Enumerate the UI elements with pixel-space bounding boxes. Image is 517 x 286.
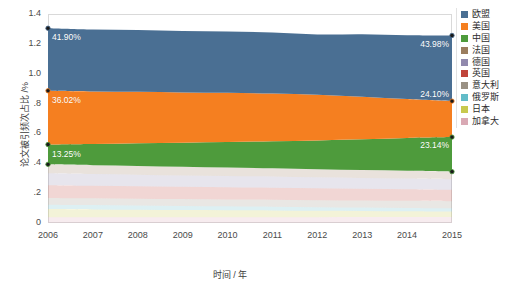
- legend-item-label: 英国: [472, 68, 490, 79]
- data-point-marker: [450, 99, 454, 103]
- x-tick-label: 2009: [163, 230, 203, 240]
- x-tick-label: 2008: [118, 230, 158, 240]
- legend-item-日本[interactable]: 日本: [461, 103, 517, 115]
- legend-item-label: 意大利: [472, 80, 499, 91]
- y-tick-label: 1.0: [15, 68, 41, 78]
- x-tick-label: 2006: [28, 230, 68, 240]
- legend-item-label: 中国: [472, 33, 490, 44]
- data-point-marker: [46, 142, 50, 146]
- legend-item-欧盟[interactable]: 欧盟: [461, 9, 517, 21]
- legend-item-意大利[interactable]: 意大利: [461, 80, 517, 92]
- data-point-marker: [46, 162, 50, 166]
- legend-swatch-icon: [461, 94, 468, 101]
- x-tick-label: 2011: [252, 230, 292, 240]
- data-label: 41.90%: [52, 32, 81, 42]
- data-label: 13.25%: [52, 149, 81, 159]
- legend-divider: [456, 8, 457, 128]
- y-tick-label: 1.2: [15, 38, 41, 48]
- area-band-美国: [48, 91, 452, 145]
- data-label: 23.14%: [405, 140, 449, 150]
- legend-item-美国[interactable]: 美国: [461, 21, 517, 33]
- data-point-marker: [450, 33, 454, 37]
- chart-legend: 欧盟美国中国法国德国英国意大利俄罗斯日本加拿大: [461, 9, 517, 127]
- legend-item-德国[interactable]: 德国: [461, 56, 517, 68]
- legend-swatch-icon: [461, 23, 468, 30]
- x-tick-label: 2015: [432, 230, 472, 240]
- legend-item-label: 德国: [472, 57, 490, 68]
- legend-swatch-icon: [461, 118, 468, 125]
- y-tick-label: 1.4: [15, 8, 41, 18]
- data-label: 36.02%: [52, 95, 81, 105]
- data-point-marker: [450, 135, 454, 139]
- data-label: 43.98%: [405, 39, 449, 49]
- legend-swatch-icon: [461, 35, 468, 42]
- legend-item-英国[interactable]: 英国: [461, 68, 517, 80]
- legend-item-label: 加拿大: [472, 116, 499, 127]
- legend-swatch-icon: [461, 59, 468, 66]
- data-point-marker: [46, 89, 50, 93]
- legend-swatch-icon: [461, 47, 468, 54]
- x-tick-label: 2007: [73, 230, 113, 240]
- legend-item-label: 美国: [472, 21, 490, 32]
- stacked-area-chart: 论文被引频次占比 /% 时间 / 年 1.41.21.0.8.6.4.20 20…: [0, 0, 517, 286]
- legend-item-加拿大[interactable]: 加拿大: [461, 115, 517, 127]
- data-point-marker: [46, 26, 50, 30]
- y-tick-label: .4: [15, 157, 41, 167]
- legend-item-label: 日本: [472, 104, 490, 115]
- legend-swatch-icon: [461, 106, 468, 113]
- x-tick-label: 2010: [208, 230, 248, 240]
- data-point-marker: [450, 169, 454, 173]
- x-tick-label: 2014: [387, 230, 427, 240]
- area-band-欧盟: [48, 28, 452, 101]
- x-axis-title: 时间 / 年: [0, 268, 460, 281]
- legend-item-中国[interactable]: 中国: [461, 33, 517, 45]
- data-label: 24.10%: [405, 89, 449, 99]
- legend-swatch-icon: [461, 70, 468, 77]
- y-tick-label: .8: [15, 98, 41, 108]
- legend-swatch-icon: [461, 11, 468, 18]
- area-band-加拿大: [48, 217, 452, 223]
- x-tick-label: 2013: [342, 230, 382, 240]
- legend-item-俄罗斯[interactable]: 俄罗斯: [461, 92, 517, 104]
- y-tick-label: .2: [15, 187, 41, 197]
- x-tick-label: 2012: [297, 230, 337, 240]
- legend-swatch-icon: [461, 82, 468, 89]
- legend-item-label: 俄罗斯: [472, 92, 499, 103]
- y-tick-label: .6: [15, 127, 41, 137]
- legend-item-label: 欧盟: [472, 9, 490, 20]
- legend-item-label: 法国: [472, 45, 490, 56]
- legend-item-法国[interactable]: 法国: [461, 44, 517, 56]
- y-tick-label: 0: [15, 217, 41, 227]
